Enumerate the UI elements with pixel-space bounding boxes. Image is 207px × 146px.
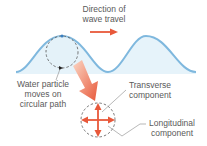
transverse-label: Transverse component (124, 80, 176, 100)
transverse-arrow-down-icon (95, 130, 102, 137)
water-particle-dot (60, 34, 63, 37)
longitudinal-arrow-right-icon (108, 117, 115, 124)
direction-arrow-head-icon (110, 29, 118, 36)
transverse-arrow-up-icon (95, 103, 102, 110)
direction-label: Direction of wave travel (78, 4, 130, 24)
longitudinal-label: Longitudinal component (144, 118, 200, 138)
wave-fill (16, 36, 196, 74)
longitudinal-arrow-left-icon (81, 117, 88, 124)
particle-orbit-circle (46, 36, 78, 68)
transverse-leader-line (102, 90, 126, 112)
particle-label: Water particle moves on circular path (8, 79, 78, 109)
